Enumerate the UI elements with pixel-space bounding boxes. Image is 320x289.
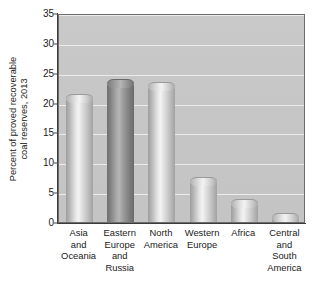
bar-series (59, 15, 304, 222)
y-axis-tick-label: 15 (30, 128, 54, 138)
bar-cap (272, 213, 299, 222)
y-axis-tick-label: 0 (30, 218, 54, 228)
x-axis-category-labels: AsiaandOceaniaEasternEuropeandRussiaNort… (58, 227, 305, 285)
bar (231, 199, 258, 222)
y-axis-tick-labels: 05101520253035 (30, 0, 54, 289)
y-axis-tick-label: 30 (30, 39, 54, 49)
y-axis-tick-label: 35 (30, 9, 54, 19)
bar (190, 177, 217, 222)
bar-body (107, 85, 134, 222)
x-axis-category-label-line: Europe (176, 239, 229, 251)
x-axis-category-label-line: Central (258, 227, 311, 239)
y-axis-tick-mark (54, 133, 58, 134)
y-axis-title-line-1: Percent of proved recoverable (8, 56, 19, 181)
x-axis-category-label-line: America (258, 262, 311, 274)
y-axis-title-line-2: coal reserves, 2013 (19, 56, 30, 181)
bar-body (190, 183, 217, 222)
x-axis-category-label-line: Russia (93, 262, 146, 274)
chart-figure: Percent of proved recoverable coal reser… (0, 0, 320, 289)
y-axis-tick-mark (54, 103, 58, 104)
x-axis-category-label-line: and (258, 239, 311, 251)
y-axis-tick-mark (54, 43, 58, 44)
bar (272, 213, 299, 222)
x-axis-category-label-line: and (93, 250, 146, 262)
clipped-caption (0, 285, 320, 289)
bar-cap (66, 94, 93, 103)
bar-cap (148, 82, 175, 91)
y-axis-tick-mark (54, 73, 58, 74)
y-axis-tick-mark (54, 14, 58, 15)
y-axis-tick-mark (54, 163, 58, 164)
y-axis-tick-mark (54, 223, 58, 224)
bar-cap (231, 199, 258, 208)
y-axis-tick-label: 20 (30, 99, 54, 109)
bar-body (66, 100, 93, 222)
x-axis-category-label: CentralandSouthAmerica (258, 227, 311, 273)
bar (66, 94, 93, 222)
y-axis-tick-label: 25 (30, 69, 54, 79)
bar-cap (190, 177, 217, 186)
bar-cap (107, 79, 134, 88)
x-axis-category-label-line: South (258, 250, 311, 262)
plot-area (58, 14, 305, 223)
bar (148, 82, 175, 222)
y-axis-tick-label: 10 (30, 158, 54, 168)
bar (107, 79, 134, 222)
y-axis-tick-label: 5 (30, 188, 54, 198)
x-axis-line (57, 223, 306, 224)
bar-body (148, 88, 175, 222)
y-axis-title: Percent of proved recoverable coal reser… (8, 14, 30, 223)
y-axis-tick-mark (54, 193, 58, 194)
